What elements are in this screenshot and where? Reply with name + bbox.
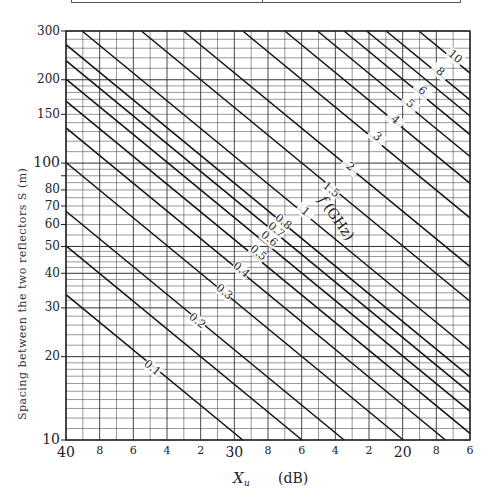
y-tick-label: 200 bbox=[37, 72, 60, 86]
curve-f-0_2 bbox=[66, 211, 344, 440]
x-tick-label: 8 bbox=[96, 444, 103, 457]
x-tick-label: 4 bbox=[332, 444, 339, 457]
y-axis-title: Spacing between the two reflectors S (m) bbox=[16, 168, 29, 420]
y-tick-label: 60 bbox=[45, 217, 60, 231]
y-tick-label: 150 bbox=[37, 107, 60, 121]
curve-label-f-0_5: 0.5 bbox=[247, 242, 269, 264]
x-tick-label: 6 bbox=[298, 444, 305, 457]
curve-f-1 bbox=[82, 31, 470, 350]
x-tick-label: 20 bbox=[394, 444, 412, 460]
y-tick-label: 300 bbox=[37, 24, 60, 38]
y-tick-label: 50 bbox=[45, 239, 60, 253]
x-axis-subscript: u bbox=[244, 478, 250, 488]
svg-text:0.5: 0.5 bbox=[247, 242, 269, 263]
x-axis-ticks: 4086423086422086 bbox=[57, 444, 473, 460]
svg-text:0.4: 0.4 bbox=[230, 259, 252, 280]
y-tick-label: 30 bbox=[45, 300, 60, 314]
y-axis-ticks: 1020304050607080100150200300 bbox=[33, 24, 66, 448]
y-tick-label: 40 bbox=[45, 266, 60, 280]
y-tick-label: 80 bbox=[45, 182, 60, 196]
curve-f-1_5 bbox=[141, 31, 470, 301]
x-tick-label: 4 bbox=[164, 444, 171, 457]
x-tick-label: 8 bbox=[265, 444, 272, 457]
x-tick-label: 6 bbox=[130, 444, 137, 457]
curve-f-4 bbox=[285, 31, 470, 183]
x-tick-label: 40 bbox=[57, 444, 75, 460]
y-tick-label: 20 bbox=[45, 349, 60, 363]
x-axis-title: X u (dB) bbox=[232, 469, 308, 488]
x-tick-label: 8 bbox=[433, 444, 440, 457]
svg-text:10: 10 bbox=[446, 47, 465, 66]
curve-f-6 bbox=[344, 31, 470, 135]
curve-label-f-10: 10 bbox=[444, 46, 466, 68]
family-label: f (GHz) bbox=[315, 192, 358, 244]
curve-label-f-3: 3 bbox=[366, 126, 388, 148]
y-tick-label: 100 bbox=[33, 154, 60, 170]
x-tick-label: 2 bbox=[197, 444, 204, 457]
y-tick-label: 70 bbox=[45, 199, 60, 213]
curve-labels: 0.10.20.30.40.50.60.70.811.523456810 bbox=[141, 46, 466, 379]
chart: 1020304050607080100150200300 40864230864… bbox=[0, 0, 489, 504]
curve-f-5 bbox=[317, 31, 470, 156]
x-tick-label: 30 bbox=[225, 444, 243, 460]
x-axis-unit: (dB) bbox=[278, 470, 308, 486]
x-tick-label: 2 bbox=[366, 444, 373, 457]
curve-label-f-1: 1 bbox=[294, 201, 316, 223]
curve-label-f-8: 8 bbox=[429, 61, 451, 83]
x-tick-label: 6 bbox=[467, 444, 474, 457]
